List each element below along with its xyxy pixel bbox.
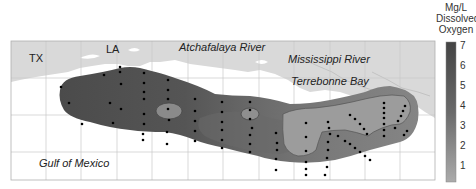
label-atchafalaya-river: Atchafalaya River (179, 42, 265, 53)
colorbar-tick-2: 2 (460, 141, 466, 151)
label-gulf-of-mexico: Gulf of Mexico (39, 158, 109, 169)
colorbar-tick-3: 3 (460, 121, 466, 131)
colorbar (446, 42, 456, 182)
colorbar-tick-4: 4 (460, 101, 466, 111)
label-terrebonne-bay: Terrebonne Bay (291, 76, 369, 87)
colorbar-tick-6: 6 (460, 61, 466, 71)
colorbar-tick-7: 7 (460, 41, 466, 51)
colorbar-title-line-dissolved: Dissolved (436, 13, 476, 24)
label-louisiana: LA (106, 44, 119, 55)
colorbar-title: Mg/L Dissolved Oxygen (436, 2, 476, 35)
label-mississippi-river: Mississippi River (288, 54, 370, 65)
colorbar-title-line-unit: Mg/L (436, 2, 476, 13)
label-texas: TX (29, 53, 43, 64)
colorbar-title-line-oxygen: Oxygen (436, 24, 476, 35)
low-oxygen-pocket (156, 103, 182, 119)
colorbar-tick-5: 5 (460, 81, 466, 91)
colorbar-tick-1: 1 (460, 161, 466, 171)
